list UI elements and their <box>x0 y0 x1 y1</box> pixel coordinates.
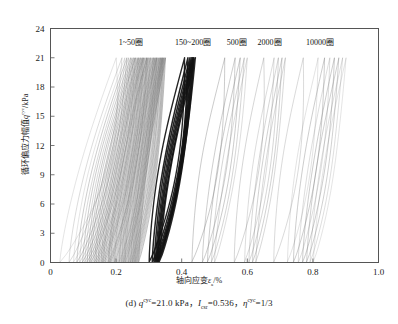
x-axis-label-unit: /% <box>213 276 222 285</box>
cycle-annotation-label: 150~200圈 <box>175 38 211 47</box>
y-tick-label: 18 <box>36 82 46 92</box>
x-axis-label-cn: 轴向应变 <box>176 276 208 285</box>
hysteresis-loop <box>256 58 286 263</box>
y-tick-label: 9 <box>40 170 45 180</box>
cycle-annotation-label: 2000圈 <box>258 38 282 47</box>
hysteresis-loop <box>287 58 318 263</box>
y-tick-label: 21 <box>36 53 45 63</box>
figure-panel: 03691215182124 00.20.40.60.81.0 1~50圈150… <box>0 0 398 324</box>
caption-sep-1: ， <box>189 298 198 308</box>
y-tick-label: 15 <box>36 111 46 121</box>
hysteresis-loop <box>274 58 304 263</box>
y-axis-label-symbol: q <box>20 115 29 119</box>
y-tick-label: 6 <box>40 199 45 209</box>
cycle-annotation-label: 1~50圈 <box>119 38 143 47</box>
caption-eta-sup: cyc <box>247 297 255 303</box>
hysteresis-loop <box>192 58 225 263</box>
y-tick-label: 24 <box>36 24 46 34</box>
y-tick-label: 3 <box>40 228 45 238</box>
cycle-annotations: 1~50圈150~200圈500圈2000圈10000圈 <box>119 38 334 47</box>
y-axis-label-sup: cyc <box>20 108 25 115</box>
cycle-annotation-label: 10000圈 <box>306 38 334 47</box>
x-axis-label: 轴向应变εa/% <box>0 274 398 287</box>
cycle-annotation-label: 500圈 <box>227 38 247 47</box>
caption-icsr-value: =0.536 <box>208 298 234 308</box>
hysteresis-curves <box>60 58 346 263</box>
caption-q-value: =21.0 kPa <box>151 298 188 308</box>
figure-caption: (d) qcyc=21.0 kPa，Icsr=0.536，ηcyc=1/3 <box>0 296 398 310</box>
y-tick-label: 0 <box>40 258 45 268</box>
caption-eta-value: =1/3 <box>256 298 273 308</box>
y-tick-label: 12 <box>36 141 45 151</box>
y-axis-label: 循环偏应力幅值qcyc/kPa <box>18 74 31 194</box>
caption-panel-id: (d) <box>126 298 137 308</box>
y-axis-label-cn: 循环偏应力幅值 <box>20 119 29 175</box>
y-axis-label-unit: /kPa <box>20 94 29 108</box>
y-axis-ticks: 03691215182124 <box>36 24 55 268</box>
caption-sep-2: ， <box>234 298 243 308</box>
caption-icsr-sub: csr <box>201 304 208 310</box>
